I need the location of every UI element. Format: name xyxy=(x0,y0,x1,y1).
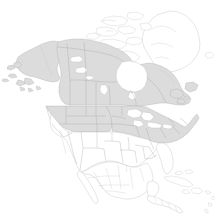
map-canvas xyxy=(0,0,216,216)
region-greenland xyxy=(142,11,200,72)
region-mexico xyxy=(77,162,159,204)
region-alaska xyxy=(2,41,63,92)
north-america-map-figure xyxy=(0,0,216,216)
region-central-america xyxy=(147,196,183,213)
region-iceland xyxy=(205,52,214,58)
